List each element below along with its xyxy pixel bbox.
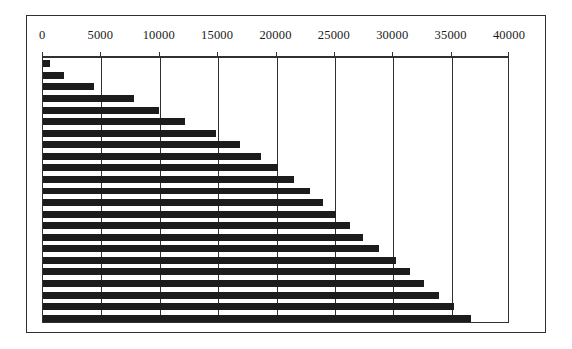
x-tick-label: 0 [39,27,45,43]
x-tick-label: 30000 [376,27,408,43]
x-tick-label: 40000 [493,27,525,43]
bar [43,118,185,125]
bar [43,245,379,252]
x-tick-label: 5000 [87,27,113,43]
bar [43,292,439,299]
bar [43,211,336,218]
x-tick-label: 20000 [259,27,291,43]
bar [43,268,410,275]
bar [43,176,294,183]
x-tick-label: 35000 [435,27,467,43]
bar [43,164,278,171]
bar [43,257,396,264]
chart-figure: 0500010000150002000025000300003500040000 [0,0,572,349]
bar [43,95,134,102]
x-axis-tick-labels: 0500010000150002000025000300003500040000 [42,27,509,47]
x-tick-label: 25000 [318,27,350,43]
bar [43,280,424,287]
bar [43,315,471,322]
bar [43,188,310,195]
bar-series [43,58,508,322]
bar [43,83,94,90]
bar [43,141,240,148]
plot-area [42,57,509,323]
x-tick-label: 10000 [143,27,175,43]
x-tick-label: 15000 [201,27,233,43]
bar [43,60,50,67]
bar [43,72,64,79]
bar [43,107,159,114]
bar [43,199,323,206]
bar [43,153,261,160]
bar [43,303,454,310]
bar [43,130,216,137]
bar [43,222,350,229]
bar [43,234,363,241]
